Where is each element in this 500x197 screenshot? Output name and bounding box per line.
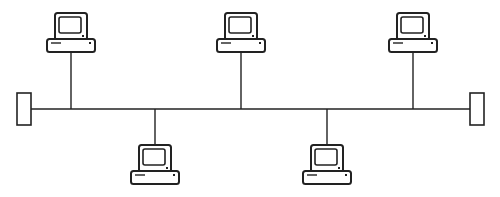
unit-led bbox=[89, 42, 91, 44]
system-unit bbox=[47, 39, 95, 52]
system-unit bbox=[389, 39, 437, 52]
diagram-canvas bbox=[0, 0, 500, 197]
monitor-power-led bbox=[424, 35, 426, 37]
monitor-screen bbox=[59, 17, 81, 33]
monitor-power-led bbox=[166, 167, 168, 169]
monitor-screen bbox=[143, 149, 165, 165]
computer-bottom-2-icon bbox=[303, 145, 351, 184]
computer-top-2-icon bbox=[217, 13, 265, 52]
computer-top-3-icon bbox=[389, 13, 437, 52]
monitor-power-led bbox=[338, 167, 340, 169]
monitor-screen bbox=[229, 17, 251, 33]
unit-led bbox=[345, 174, 347, 176]
monitor-power-led bbox=[82, 35, 84, 37]
monitor-screen bbox=[401, 17, 423, 33]
monitor-power-led bbox=[252, 35, 254, 37]
terminator-left bbox=[17, 93, 31, 125]
terminator-right bbox=[470, 93, 484, 125]
computer-bottom-1-icon bbox=[131, 145, 179, 184]
network-links bbox=[71, 52, 413, 145]
system-unit bbox=[131, 171, 179, 184]
system-unit bbox=[217, 39, 265, 52]
computer-nodes bbox=[47, 13, 437, 184]
unit-led bbox=[259, 42, 261, 44]
bus-network-diagram bbox=[0, 0, 500, 197]
unit-led bbox=[431, 42, 433, 44]
computer-top-1-icon bbox=[47, 13, 95, 52]
unit-led bbox=[173, 174, 175, 176]
monitor-screen bbox=[315, 149, 337, 165]
system-unit bbox=[303, 171, 351, 184]
